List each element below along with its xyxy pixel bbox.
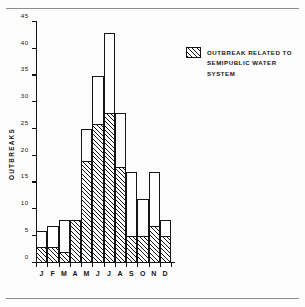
x-tick-label: A	[73, 270, 79, 277]
bar-hatched-segment	[149, 226, 160, 263]
y-tick-label: 5	[25, 227, 29, 233]
plot-area: 051015202530354045 JFMAMJJASOND	[36, 22, 171, 263]
x-tick-label: A	[118, 270, 124, 277]
y-tick-label: 25	[21, 120, 29, 126]
x-tick-label: N	[151, 270, 157, 277]
bar-hatched-segment	[160, 236, 171, 263]
y-axis-line	[36, 22, 37, 263]
y-tick-label: 40	[21, 39, 29, 45]
y-tick-label: 10	[21, 200, 29, 206]
bar-hatched-segment	[115, 167, 126, 263]
bar-hatched-segment	[104, 113, 115, 263]
bar-hatched-segment	[126, 236, 137, 263]
x-tick-mark	[171, 262, 172, 267]
figure-container: OUTBREAKS 051015202530354045 JFMAMJJASON…	[0, 0, 305, 307]
bar-hatched-segment	[92, 124, 103, 263]
y-tick-label: 30	[21, 93, 29, 99]
bar-hatched-segment	[81, 161, 92, 263]
y-tick-mark	[32, 155, 37, 156]
x-tick-label: M	[61, 270, 67, 277]
hatched-swatch-icon	[186, 47, 201, 58]
x-tick-label: F	[50, 270, 55, 277]
x-tick-label: S	[129, 270, 134, 277]
x-tick-label: M	[83, 270, 89, 277]
y-tick-label: 15	[21, 173, 29, 179]
top-divider-rule	[6, 8, 299, 9]
y-tick-mark	[32, 48, 37, 49]
x-tick-label: J	[96, 270, 100, 277]
legend-label: OUTBREAK RELATED TO SEMIPUBLIC WATER SYS…	[207, 47, 292, 79]
y-tick-mark	[32, 74, 37, 75]
x-tick-label: D	[163, 270, 169, 277]
y-tick-label: 45	[21, 13, 29, 19]
y-tick-mark	[32, 181, 37, 182]
bar-hatched-segment	[47, 247, 58, 263]
x-tick-label: J	[107, 270, 111, 277]
y-tick-mark	[32, 208, 37, 209]
y-axis-title: OUTBREAKS	[8, 127, 15, 179]
y-tick-label: 0	[25, 254, 29, 260]
bar-hatched-segment	[36, 247, 47, 263]
bar-hatched-segment	[70, 220, 81, 263]
y-tick-label: 35	[21, 66, 29, 72]
x-tick-label: O	[140, 270, 146, 277]
bottom-divider-rule	[6, 298, 299, 299]
y-tick-label: 20	[21, 147, 29, 153]
bar-hatched-segment	[59, 252, 70, 263]
x-tick-label: J	[39, 270, 43, 277]
legend: OUTBREAK RELATED TO SEMIPUBLIC WATER SYS…	[186, 47, 292, 79]
y-tick-mark	[32, 101, 37, 102]
bar-hatched-segment	[137, 236, 148, 263]
y-tick-mark	[32, 128, 37, 129]
y-tick-mark	[32, 21, 37, 22]
